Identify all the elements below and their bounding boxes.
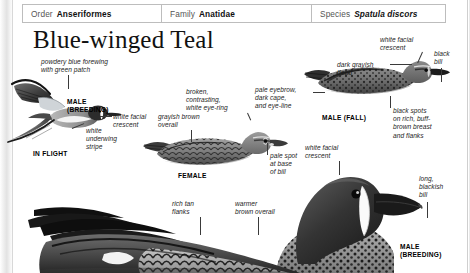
leader-black-bill: [441, 68, 442, 82]
annotation-long-blackish-bill: long, blackish bill: [419, 175, 459, 200]
leader-white-facial-crescent-breeding: [339, 161, 340, 175]
leader-white-facial-crescent-flight: [100, 116, 112, 117]
leader-powdery-forewing: [68, 75, 69, 89]
leader-pale-eyebrow: [313, 92, 325, 93]
leader-grayish-brown-overall: [191, 130, 192, 142]
annotation-broken-eye-ring: broken, contrasting, white eye-ring: [186, 88, 248, 113]
taxonomy-key-order: Order: [31, 9, 53, 19]
plate-label-male-breeding-flight: MALE (BREEDING): [67, 98, 109, 115]
field-guide-page: Order Anseriformes Family Anatidae Speci…: [0, 0, 470, 273]
leader-warmer-brown-overall: [258, 217, 259, 235]
plate-label-in-flight: IN FLIGHT: [33, 150, 67, 158]
taxonomy-key-species: Species: [320, 9, 350, 19]
illustration-female-swimming: [141, 126, 291, 174]
annotation-white-facial-crescent-fall: white facial crescent: [380, 36, 432, 52]
annotation-black-bill: black bill: [434, 50, 464, 66]
taxonomy-cell-species: Species Spatula discors: [311, 5, 445, 22]
taxonomy-cell-family: Family Anatidae: [161, 5, 311, 22]
annotation-rich-tan-flanks: rich tan flanks: [172, 200, 216, 216]
plate-label-female: FEMALE: [178, 172, 207, 180]
annotation-warmer-brown-overall: warmer brown overall: [235, 200, 297, 216]
annotation-black-spots: black spots on rich, buff- brown breast …: [393, 107, 455, 140]
annotation-powdery-forewing: powdery blue forewing with green patch: [41, 58, 141, 74]
plate-label-male-breeding-large: MALE (BREEDING): [400, 243, 442, 260]
taxonomy-value-species: Spatula discors: [354, 9, 417, 19]
leader-broken-eye-ring: [247, 113, 251, 121]
annotation-dark-grayish-head: dark grayish head: [337, 61, 395, 77]
taxonomy-cell-order: Order Anseriformes: [23, 5, 161, 22]
taxonomy-key-family: Family: [170, 9, 195, 19]
leader-dark-grayish-head: [390, 64, 412, 65]
leader-black-spots: [390, 96, 391, 108]
taxonomy-header: Order Anseriformes Family Anatidae Speci…: [22, 4, 446, 23]
annotation-pale-eyebrow: pale eyebrow, dark cape, and eye-line: [255, 86, 313, 111]
annotation-white-underwing-stripe: white underwing stripe: [86, 127, 130, 152]
page-edge-right: [467, 0, 468, 273]
leader-pale-spot-bill: [267, 143, 268, 155]
leader-long-blackish-bill: [427, 202, 428, 218]
annotation-white-facial-crescent-breeding: white facial crescent: [305, 144, 357, 160]
annotation-grayish-brown-overall: grayish brown overall: [158, 113, 216, 129]
taxonomy-value-order: Anseriformes: [57, 9, 112, 19]
leader-rich-tan-flanks: [200, 217, 201, 235]
plate-label-male-fall: MALE (FALL): [322, 114, 366, 122]
taxonomy-value-family: Anatidae: [199, 9, 235, 19]
page-title: Blue-winged Teal: [33, 26, 214, 54]
